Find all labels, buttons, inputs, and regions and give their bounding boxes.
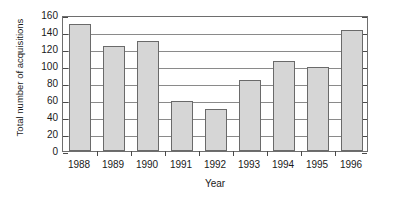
axis-tick bbox=[63, 136, 68, 137]
axis-tick bbox=[63, 85, 68, 86]
gridline bbox=[63, 34, 367, 35]
x-axis-tick bbox=[165, 151, 166, 156]
axis-tick bbox=[63, 34, 68, 35]
x-axis-tick bbox=[301, 151, 302, 156]
y-axis-tick-label: 160 bbox=[41, 11, 58, 21]
axis-tick bbox=[63, 68, 68, 69]
x-axis-tick-label: 1996 bbox=[331, 160, 371, 170]
bar-1992 bbox=[205, 109, 227, 152]
bar-1990 bbox=[137, 41, 159, 152]
bar-chart: Total number of acquisitions 02040608010… bbox=[0, 0, 400, 198]
axis-tick bbox=[63, 51, 68, 52]
bar-1995 bbox=[307, 67, 329, 151]
y-axis-tick-label: 20 bbox=[47, 130, 58, 140]
axis-tick bbox=[63, 153, 68, 154]
y-axis-tick-label: 80 bbox=[47, 79, 58, 89]
bar-1991 bbox=[171, 101, 193, 151]
bar-1993 bbox=[239, 80, 261, 151]
y-axis-tick-labels: 020406080100120140160 bbox=[16, 16, 58, 152]
y-axis-tick-label: 40 bbox=[47, 113, 58, 123]
bar-1996 bbox=[341, 30, 363, 151]
bar-1988 bbox=[69, 24, 91, 152]
bar-1989 bbox=[103, 46, 125, 151]
plot-area bbox=[62, 16, 368, 152]
x-axis-tick bbox=[199, 151, 200, 156]
x-axis-tick bbox=[335, 151, 336, 156]
x-axis-title: Year bbox=[62, 178, 368, 189]
y-axis-tick-label: 60 bbox=[47, 96, 58, 106]
x-axis-tick-labels: 198819891990199119921993199419951996 bbox=[62, 160, 368, 172]
bar-1994 bbox=[273, 61, 295, 151]
axis-tick bbox=[63, 17, 68, 18]
y-axis-tick-label: 0 bbox=[52, 147, 58, 157]
x-axis-tick bbox=[233, 151, 234, 156]
x-axis-tick bbox=[131, 151, 132, 156]
axis-tick bbox=[63, 102, 68, 103]
x-axis-tick bbox=[97, 151, 98, 156]
axis-tick bbox=[362, 153, 367, 154]
y-axis-tick-label: 140 bbox=[41, 28, 58, 38]
x-axis-tick bbox=[267, 151, 268, 156]
y-axis-tick-label: 120 bbox=[41, 45, 58, 55]
axis-tick bbox=[362, 17, 367, 18]
axis-tick bbox=[63, 119, 68, 120]
y-axis-tick-label: 100 bbox=[41, 62, 58, 72]
